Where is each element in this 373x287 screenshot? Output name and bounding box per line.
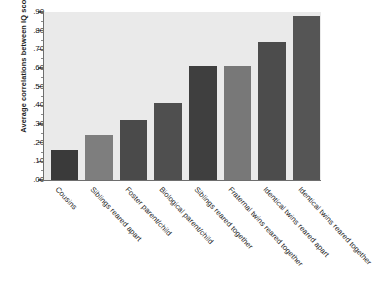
x-tick-label: Identical twins reared together (296, 185, 373, 267)
x-tick-label: Cousins (54, 185, 80, 211)
x-tick-label: Siblings reared together (192, 185, 254, 251)
x-tick-label: Identical twins reared apart (261, 185, 331, 259)
